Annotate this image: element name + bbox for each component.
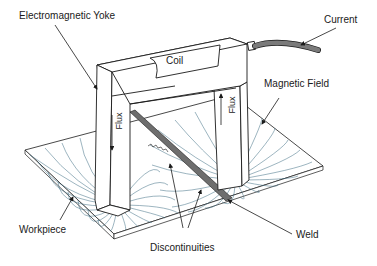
label-flux-right: Flux [227, 96, 237, 113]
label-weld: Weld [296, 229, 319, 241]
label-current: Current [324, 14, 357, 26]
label-discontinuities: Discontinuities [150, 242, 214, 254]
workpiece-plate [25, 95, 323, 239]
diagram-canvas: Electromagnetic Yoke Current Coil Magnet… [0, 0, 377, 266]
label-workpiece: Workpiece [19, 224, 66, 236]
label-magnetic-field: Magnetic Field [264, 78, 329, 90]
label-electromagnetic-yoke: Electromagnetic Yoke [19, 10, 115, 22]
label-flux-left: Flux [114, 112, 124, 129]
label-coil: Coil [166, 55, 183, 66]
